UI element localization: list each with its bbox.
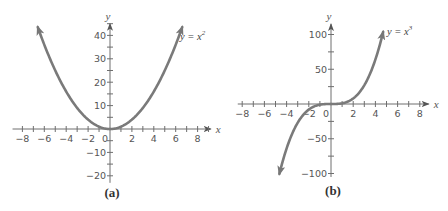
x-tick-label: 6 — [173, 133, 179, 144]
x-tick-label: −6 — [257, 108, 271, 119]
x-tick-label: −8 — [15, 133, 29, 144]
x-tick-label: 8 — [195, 133, 201, 144]
y-tick-label: 50 — [315, 64, 327, 75]
panel-caption: (b) — [325, 183, 341, 198]
curve-right-branch — [110, 27, 182, 129]
x-axis-label: x — [433, 98, 439, 110]
x-tick-label: 4 — [151, 133, 157, 144]
y-tick-label: 30 — [94, 53, 106, 64]
x-axis-label: x — [215, 123, 221, 135]
y-axis-label: y — [105, 10, 111, 22]
x-tick-label: −8 — [235, 108, 249, 119]
y-tick-label: −100 — [301, 168, 327, 179]
y-tick-label: 20 — [94, 77, 106, 88]
x-tick-label: 4 — [372, 108, 378, 119]
y-tick-label: 100 — [309, 29, 327, 40]
panel-caption: (a) — [104, 185, 119, 200]
x-tick-label: 2 — [129, 133, 135, 144]
y-tick-label: 10 — [94, 100, 106, 111]
y-axis-label: y — [326, 10, 332, 22]
equation-label: y = x2 — [179, 29, 206, 42]
x-tick-label: −2 — [81, 133, 95, 144]
x-tick-label: −4 — [280, 108, 294, 119]
y-tick-label: −20 — [86, 170, 106, 181]
x-tick-label: 2 — [350, 108, 356, 119]
curve-right-branch — [331, 32, 383, 104]
x-tick-label: −6 — [37, 133, 51, 144]
x-tick-label: 0 — [102, 133, 108, 144]
x-tick-label: 6 — [395, 108, 401, 119]
y-tick-label: −10 — [86, 147, 106, 158]
equation-label: y = x3 — [386, 24, 413, 37]
x-tick-label: 8 — [417, 108, 423, 119]
figure: −8−6−4−202468−20−1010203040xyy = x2(a) −… — [0, 0, 448, 211]
x-tick-label: 0 — [323, 108, 329, 119]
x-tick-label: −4 — [59, 133, 73, 144]
y-tick-label: −50 — [307, 133, 327, 144]
panel-a-x-squared: −8−6−4−202468−20−1010203040xyy = x2(a) — [13, 10, 221, 200]
y-tick-label: 40 — [94, 30, 106, 41]
chart-canvas: −8−6−4−202468−20−1010203040xyy = x2(a) −… — [0, 0, 448, 211]
panel-b-x-cubed: −8−6−4−202468−100−5050100xyy = x3(b) — [235, 10, 438, 198]
